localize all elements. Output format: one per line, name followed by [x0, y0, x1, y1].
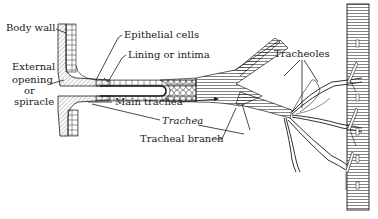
- svg-text:Epithelial cells: Epithelial cells: [124, 29, 199, 40]
- label-tracheal-branch: Tracheal branch: [140, 108, 236, 144]
- svg-text:External: External: [12, 61, 55, 72]
- svg-text:Trachea: Trachea: [162, 115, 203, 126]
- svg-text:or: or: [24, 85, 35, 96]
- label-tracheoles: Tracheoles: [274, 48, 330, 108]
- svg-text:Main trachea: Main trachea: [115, 96, 183, 107]
- tracheal-system-diagram: Body wall Epithelial cells Lining or int…: [0, 0, 378, 219]
- svg-text:opening: opening: [12, 74, 53, 85]
- label-body-wall: Body wall: [6, 22, 66, 33]
- svg-text:Lining or intima: Lining or intima: [128, 49, 210, 60]
- label-lining-or-intima: Lining or intima: [104, 49, 210, 82]
- svg-text:spiracle: spiracle: [14, 96, 54, 107]
- label-external-opening: External opening or spiracle: [12, 61, 64, 107]
- svg-text:Tracheoles: Tracheoles: [274, 48, 330, 59]
- svg-text:Tracheal branch: Tracheal branch: [140, 133, 224, 144]
- svg-text:Body wall: Body wall: [6, 22, 56, 33]
- muscle-fiber: [346, 4, 369, 210]
